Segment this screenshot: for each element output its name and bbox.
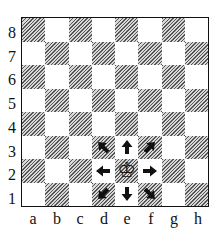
square-h1 [185, 183, 208, 207]
arrow-down-icon [119, 186, 135, 202]
file-label-d: d [96, 211, 112, 227]
square-e6 [115, 65, 138, 89]
square-d4 [92, 112, 115, 136]
square-f5 [138, 89, 161, 113]
square-c5 [69, 89, 92, 113]
square-a7 [22, 42, 45, 66]
square-h7 [185, 42, 208, 66]
square-b5 [45, 89, 68, 113]
square-f8 [138, 18, 161, 42]
square-c2 [69, 159, 92, 183]
file-label-a: a [25, 211, 41, 227]
file-label-g: g [166, 211, 182, 227]
square-d2 [92, 159, 115, 183]
square-d5 [92, 89, 115, 113]
square-h2 [185, 159, 208, 183]
square-g5 [162, 89, 185, 113]
arrow-down-left-icon [95, 186, 111, 202]
square-f1 [138, 183, 161, 207]
file-label-f: f [143, 211, 159, 227]
file-label-c: c [72, 211, 88, 227]
square-d6 [92, 65, 115, 89]
file-label-e: e [119, 211, 135, 227]
square-a5 [22, 89, 45, 113]
square-e8 [115, 18, 138, 42]
square-e4 [115, 112, 138, 136]
arrow-left-icon [95, 163, 111, 179]
arrow-down-right-icon [142, 186, 158, 202]
square-c6 [69, 65, 92, 89]
arrow-up-icon [119, 139, 135, 155]
rank-label-5: 5 [6, 96, 18, 112]
square-h5 [185, 89, 208, 113]
square-b6 [45, 65, 68, 89]
square-g3 [162, 136, 185, 160]
square-g1 [162, 183, 185, 207]
file-label-h: h [190, 211, 206, 227]
square-d8 [92, 18, 115, 42]
square-g4 [162, 112, 185, 136]
square-f2 [138, 159, 161, 183]
rank-label-6: 6 [6, 72, 18, 88]
arrow-right-icon [142, 163, 158, 179]
square-c8 [69, 18, 92, 42]
rank-label-7: 7 [6, 49, 18, 65]
square-a2 [22, 159, 45, 183]
square-d7 [92, 42, 115, 66]
square-g2 [162, 159, 185, 183]
square-g7 [162, 42, 185, 66]
square-a6 [22, 65, 45, 89]
square-f6 [138, 65, 161, 89]
arrow-up-right-icon [142, 139, 158, 155]
square-a1 [22, 183, 45, 207]
square-h3 [185, 136, 208, 160]
square-e2: ♔ [115, 159, 138, 183]
square-b3 [45, 136, 68, 160]
rank-label-4: 4 [6, 120, 18, 136]
rank-label-1: 1 [6, 191, 18, 207]
square-e3 [115, 136, 138, 160]
square-e7 [115, 42, 138, 66]
chess-board: ♔ [21, 17, 209, 207]
square-e5 [115, 89, 138, 113]
square-f7 [138, 42, 161, 66]
square-b2 [45, 159, 68, 183]
rank-label-2: 2 [6, 167, 18, 183]
square-f4 [138, 112, 161, 136]
rank-label-8: 8 [6, 25, 18, 41]
square-h6 [185, 65, 208, 89]
square-b7 [45, 42, 68, 66]
rank-label-3: 3 [6, 144, 18, 160]
square-f3 [138, 136, 161, 160]
file-label-b: b [49, 211, 65, 227]
square-b1 [45, 183, 68, 207]
white-king-icon: ♔ [117, 160, 136, 181]
square-a8 [22, 18, 45, 42]
square-h8 [185, 18, 208, 42]
square-g8 [162, 18, 185, 42]
square-d1 [92, 183, 115, 207]
square-c3 [69, 136, 92, 160]
square-h4 [185, 112, 208, 136]
arrow-up-left-icon [95, 139, 111, 155]
square-c1 [69, 183, 92, 207]
square-a4 [22, 112, 45, 136]
square-b8 [45, 18, 68, 42]
square-g6 [162, 65, 185, 89]
square-a3 [22, 136, 45, 160]
square-d3 [92, 136, 115, 160]
square-e1 [115, 183, 138, 207]
square-c4 [69, 112, 92, 136]
square-c7 [69, 42, 92, 66]
square-b4 [45, 112, 68, 136]
